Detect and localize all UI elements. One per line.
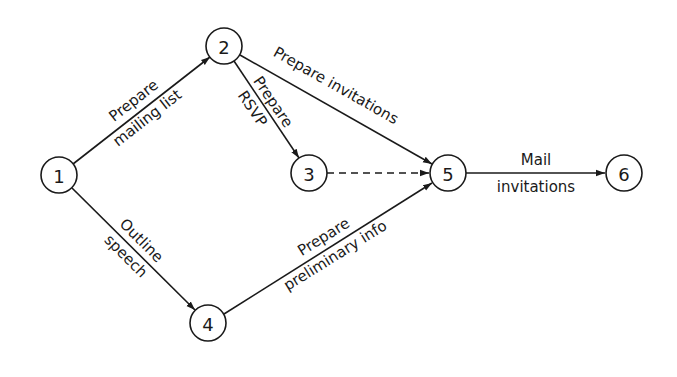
node-1: 1: [41, 157, 77, 193]
node-2: 2: [206, 28, 242, 64]
edge-1-2: Prepare mailing list: [73, 57, 210, 164]
edge-4-5: Prepare preliminary info: [224, 183, 432, 314]
node-4: 4: [190, 305, 226, 341]
edge-1-4: Outline speech: [72, 188, 195, 310]
edge-label-below: invitations: [497, 178, 576, 196]
node-label: 6: [618, 164, 629, 185]
activity-network-diagram: Prepare mailing list Prepare RSVP Prepar…: [0, 0, 677, 377]
node-6: 6: [606, 155, 642, 191]
node-5: 5: [430, 155, 466, 191]
arrow-line: [72, 188, 195, 310]
node-label: 4: [202, 314, 213, 335]
edge-2-3: Prepare RSVP: [232, 61, 299, 158]
edge-label-above: Mail: [521, 151, 551, 169]
node-3: 3: [291, 155, 327, 191]
node-label: 5: [442, 164, 453, 185]
node-label: 2: [218, 37, 229, 58]
node-label: 3: [303, 164, 314, 185]
edge-5-6: Mail invitations: [466, 151, 605, 196]
node-label: 1: [53, 166, 64, 187]
